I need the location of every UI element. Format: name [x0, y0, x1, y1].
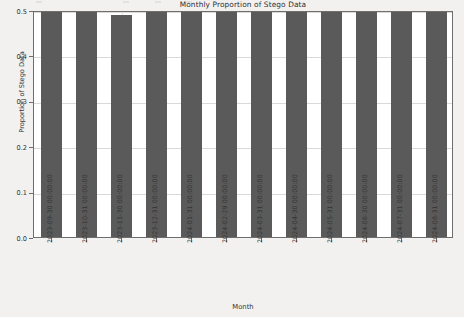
plot-inner: [34, 12, 452, 237]
x-tick-label: 2024-06-30 00:00:00: [361, 174, 368, 243]
x-tick-label: 2023-11-30 00:00:00: [116, 174, 123, 243]
y-tick-label: 0.0: [1, 235, 27, 243]
x-tick-label: 2024-02-29 00:00:00: [221, 174, 228, 243]
x-tick-label: 2024-08-31 00:00:00: [431, 174, 438, 243]
y-tick-mark: [29, 147, 33, 148]
x-tick-label: 2024-04-30 00:00:00: [291, 174, 298, 243]
y-tick-mark: [29, 193, 33, 194]
y-tick-mark: [29, 238, 33, 239]
x-tick-label: 2023-09-30 00:00:00: [46, 174, 53, 243]
x-tick-label: 2024-05-31 00:00:00: [326, 174, 333, 243]
figure-canvas: Monthly Proportion of Stego Data 0.00.10…: [0, 0, 464, 317]
x-tick-label: 2023-10-31 00:00:00: [81, 174, 88, 243]
y-tick-mark: [29, 11, 33, 12]
x-axis-label: Month: [33, 303, 453, 311]
y-tick-label: 0.1: [1, 189, 27, 197]
y-tick-label: 0.5: [1, 8, 27, 16]
y-tick-mark: [29, 56, 33, 57]
x-tick-label: 2024-01-31 00:00:00: [186, 174, 193, 243]
x-tick-label: 2023-12-31 00:00:00: [151, 174, 158, 243]
chart-title: Monthly Proportion of Stego Data: [33, 0, 453, 9]
y-tick-mark: [29, 102, 33, 103]
plot-area: [33, 11, 453, 238]
x-tick-label: 2024-07-31 00:00:00: [396, 174, 403, 243]
x-tick-label: 2024-03-31 00:00:00: [256, 174, 263, 243]
y-axis-label: Proportion of Stego Data: [18, 27, 26, 157]
